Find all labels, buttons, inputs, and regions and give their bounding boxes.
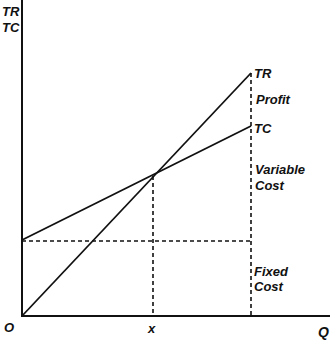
x-axis-label: Q xyxy=(318,324,329,340)
tc-end-label: TC xyxy=(254,121,272,136)
variable-label: Variable xyxy=(255,162,305,177)
tr-end-label: TR xyxy=(254,66,272,81)
y-label-tr: TR xyxy=(2,4,20,19)
tc-line xyxy=(22,126,251,240)
y-label-tc: TC xyxy=(2,20,20,35)
fixed-label: Fixed xyxy=(254,264,289,279)
tr-line xyxy=(22,73,251,316)
break-even-diagram: TR TC O x Q TR Profit TC Variable Cost F… xyxy=(0,0,333,348)
fixed-cost-label: Cost xyxy=(254,279,284,294)
x-marker-label: x xyxy=(147,321,156,336)
variable-cost-label: Cost xyxy=(255,178,285,193)
profit-label: Profit xyxy=(256,92,291,107)
origin-label: O xyxy=(4,320,14,335)
